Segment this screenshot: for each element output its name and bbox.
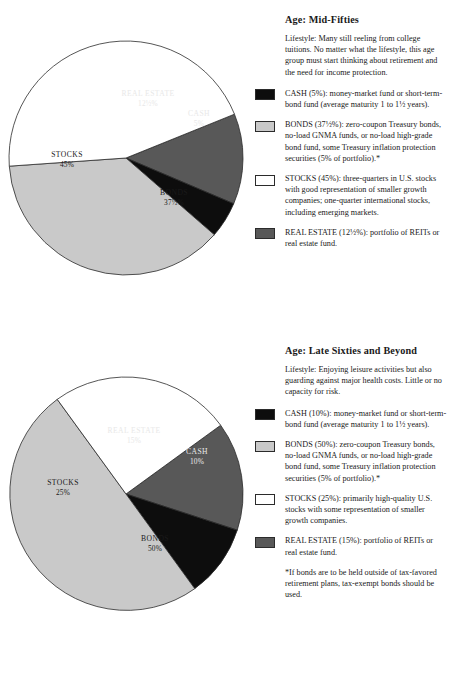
section-late-sixties: Age: Late Sixties and Beyond Lifestyle: … bbox=[255, 345, 447, 609]
swatch-real-estate bbox=[255, 228, 275, 239]
legend-item-bonds: BONDS (50%): zero-coupon Treasury bonds,… bbox=[255, 439, 447, 484]
legend-text-stocks: STOCKS (25%): primarily high-quality U.S… bbox=[285, 493, 447, 527]
pie1-pct-cash: 5% bbox=[194, 119, 204, 128]
page-root: REAL ESTATE 12½% CASH 5% BONDS 37½% STOC… bbox=[0, 0, 451, 675]
legend-item-real-estate: REAL ESTATE (15%): portfolio of REITs or… bbox=[255, 535, 447, 557]
pie1-label-cash: CASH bbox=[188, 109, 210, 118]
pie2-label-stocks: STOCKS bbox=[47, 478, 79, 487]
legend-item-bonds: BONDS (37½%): zero-coupon Treasury bonds… bbox=[255, 119, 447, 164]
swatch-cash bbox=[255, 409, 275, 420]
swatch-stocks bbox=[255, 494, 275, 505]
lifestyle-paragraph: Lifestyle: Enjoying leisure activities b… bbox=[255, 364, 447, 398]
legend-item-cash: CASH (10%): money-market fund or short-t… bbox=[255, 408, 447, 430]
pie-chart-mid-fifties: REAL ESTATE 12½% CASH 5% BONDS 37½% STOC… bbox=[8, 40, 254, 280]
pie-svg-2: REAL ESTATE 15% CASH 10% BONDS 50% STOCK… bbox=[8, 372, 254, 620]
legend-item-cash: CASH (5%): money-market fund or short-te… bbox=[255, 88, 447, 110]
legend-text-real-estate: REAL ESTATE (15%): portfolio of REITs or… bbox=[285, 535, 447, 557]
pie1-label-real-estate: REAL ESTATE bbox=[121, 89, 174, 98]
legend-item-stocks: STOCKS (25%): primarily high-quality U.S… bbox=[255, 493, 447, 527]
pie2-label-real-estate: REAL ESTATE bbox=[107, 426, 160, 435]
lifestyle-paragraph: Lifestyle: Many still reeling from colle… bbox=[255, 33, 447, 78]
pie1-label-stocks: STOCKS bbox=[51, 150, 83, 159]
pie1-label-bonds: BONDS bbox=[160, 188, 188, 197]
legend-item-stocks: STOCKS (45%): three-quarters in U.S. sto… bbox=[255, 173, 447, 218]
pie1-pct-real-estate: 12½% bbox=[138, 99, 158, 108]
pie2-pct-real-estate: 15% bbox=[127, 436, 141, 445]
swatch-bonds bbox=[255, 441, 275, 452]
swatch-bonds bbox=[255, 121, 275, 132]
section-title: Age: Late Sixties and Beyond bbox=[255, 345, 447, 356]
section-title: Age: Mid-Fifties bbox=[255, 14, 447, 25]
legend-text-stocks: STOCKS (45%): three-quarters in U.S. sto… bbox=[285, 173, 447, 218]
legend-item-real-estate: REAL ESTATE (12½%): portfolio of REITs o… bbox=[255, 227, 447, 249]
pie1-pct-bonds: 37½% bbox=[164, 198, 184, 207]
legend-text-cash: CASH (5%): money-market fund or short-te… bbox=[285, 88, 447, 110]
legend-text-cash: CASH (10%): money-market fund or short-t… bbox=[285, 408, 447, 430]
section-mid-fifties: Age: Mid-Fifties Lifestyle: Many still r… bbox=[255, 14, 447, 258]
legend-text-bonds: BONDS (37½%): zero-coupon Treasury bonds… bbox=[285, 119, 447, 164]
pie2-pct-bonds: 50% bbox=[148, 544, 162, 553]
swatch-stocks bbox=[255, 175, 275, 186]
pie2-label-cash: CASH bbox=[186, 447, 208, 456]
swatch-real-estate bbox=[255, 537, 275, 548]
pie2-label-bonds: BONDS bbox=[141, 534, 169, 543]
pie-chart-late-sixties: REAL ESTATE 15% CASH 10% BONDS 50% STOCK… bbox=[8, 372, 254, 620]
swatch-cash bbox=[255, 89, 275, 100]
legend-text-bonds: BONDS (50%): zero-coupon Treasury bonds,… bbox=[285, 439, 447, 484]
footnote: *If bonds are to be held outside of tax-… bbox=[255, 567, 447, 601]
pie1-pct-stocks: 45% bbox=[60, 160, 74, 169]
pie2-pct-cash: 10% bbox=[190, 457, 204, 466]
legend-text-real-estate: REAL ESTATE (12½%): portfolio of REITs o… bbox=[285, 227, 447, 249]
pie2-pct-stocks: 25% bbox=[56, 488, 70, 497]
pie-svg-1: REAL ESTATE 12½% CASH 5% BONDS 37½% STOC… bbox=[8, 40, 254, 280]
